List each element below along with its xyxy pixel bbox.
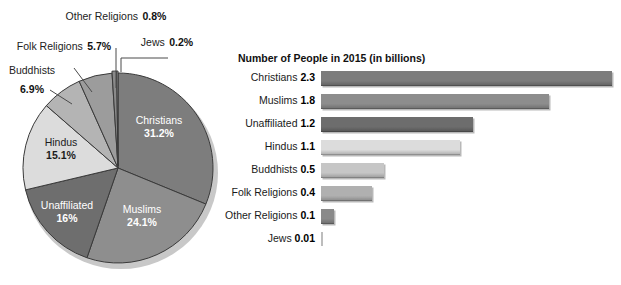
pie-callout-value: 6.9% [20, 83, 44, 95]
bar-fill[interactable] [321, 209, 334, 224]
bar-row: Buddhists 0.5 [232, 163, 621, 186]
bar-row-value: 0.01 [295, 232, 315, 244]
pie-callout-label: Folk Religions [17, 40, 83, 52]
pie-slice-label-hindus: Hindus 15.1% [30, 136, 92, 161]
bar-row-value: 0.1 [300, 209, 315, 221]
pie-callout-jews: Jews 0.2% [140, 32, 194, 51]
bar-fill[interactable] [321, 71, 612, 86]
bar-track [321, 209, 334, 223]
pie-callout-value: 0.8% [142, 10, 166, 22]
bar-fill[interactable] [321, 94, 549, 109]
bar-fill[interactable] [321, 117, 473, 132]
bar-row-label: Muslims 1.8 [259, 94, 315, 106]
bar-row: Jews 0.01 [232, 232, 621, 255]
pie-slice-label-text: Christians [122, 114, 196, 127]
bar-fill[interactable] [321, 186, 372, 201]
pie-slice-value-text: 15.1% [30, 149, 92, 162]
bar-row-name: Muslims [259, 94, 300, 106]
bar-row-label: Other Religions 0.1 [225, 209, 315, 221]
pie-callout-value: 0.2% [169, 36, 193, 48]
bar-track [321, 232, 323, 246]
pie-slice-label-text: Unaffiliated [28, 199, 106, 212]
pie-slice-label-unaffiliated: Unaffiliated 16% [28, 199, 106, 224]
bar-row-label: Hindus 1.1 [265, 140, 315, 152]
pie-slice-label-text: Hindus [30, 136, 92, 149]
bar-track [321, 140, 460, 154]
bar-track [321, 71, 612, 85]
pie-callout-buddhists: Buddhists 6.9% [0, 60, 64, 98]
pie-callout-other-religions: Other Religions 0.8% [64, 6, 168, 25]
bar-row-value: 1.8 [300, 94, 315, 106]
bar-row-value: 1.2 [300, 117, 315, 129]
bar-chart-panel: Number of People in 2015 (in billions) C… [232, 0, 621, 285]
bar-row: Other Religions 0.1 [232, 209, 621, 232]
pie-slice-label-christians: Christians 31.2% [122, 114, 196, 139]
bar-row: Muslims 1.8 [232, 94, 621, 117]
bar-row-name: Jews [268, 232, 295, 244]
bar-row-value: 2.3 [300, 71, 315, 83]
bar-track [321, 186, 372, 200]
bar-row-label: Folk Religions 0.4 [232, 186, 315, 198]
pie-callout-label: Buddhists [9, 64, 55, 76]
bar-row-label: Buddhists 0.5 [251, 163, 315, 175]
bar-row-name: Other Religions [225, 209, 300, 221]
pie-slice-value-text: 16% [28, 212, 106, 225]
bar-row-label: Jews 0.01 [268, 232, 315, 244]
bar-row-label: Unaffiliated 1.2 [245, 117, 315, 129]
bar-row: Christians 2.3 [232, 71, 621, 94]
bar-row: Folk Religions 0.4 [232, 186, 621, 209]
bar-fill[interactable] [321, 163, 384, 178]
pie-chart-panel: Other Religions 0.8% Jews 0.2% Folk Reli… [0, 0, 232, 285]
bar-track [321, 94, 549, 108]
infographic-root: Other Religions 0.8% Jews 0.2% Folk Reli… [0, 0, 621, 285]
bar-chart-title: Number of People in 2015 (in billions) [238, 52, 425, 64]
bar-row: Hindus 1.1 [232, 140, 621, 163]
bar-chart-rows: Christians 2.3Muslims 1.8Unaffiliated 1.… [232, 71, 621, 255]
bar-row-name: Hindus [265, 140, 301, 152]
pie-slice-value-text: 31.2% [122, 127, 196, 140]
bar-row-value: 0.5 [300, 163, 315, 175]
bar-row-value: 0.4 [300, 186, 315, 198]
bar-row-value: 1.1 [300, 140, 315, 152]
bar-fill[interactable] [321, 140, 460, 155]
leader-jews [121, 58, 168, 72]
bar-row-label: Christians 2.3 [251, 71, 315, 83]
pie-callout-label: Other Religions [66, 10, 138, 22]
bar-row-name: Unaffiliated [245, 117, 300, 129]
bar-track [321, 163, 384, 177]
pie-callout-value: 5.7% [87, 40, 111, 52]
bar-row-name: Buddhists [251, 163, 300, 175]
pie-slice-value-text: 24.1% [110, 216, 174, 229]
bar-row: Unaffiliated 1.2 [232, 117, 621, 140]
bar-row-name: Christians [251, 71, 301, 83]
pie-callout-folk-religions: Folk Religions 5.7% [16, 36, 112, 55]
bar-row-name: Folk Religions [232, 186, 301, 198]
bar-track [321, 117, 473, 131]
pie-callout-label: Jews [141, 36, 165, 48]
bar-fill[interactable] [321, 232, 323, 246]
pie-slice-label-text: Muslims [110, 203, 174, 216]
pie-slice-label-muslims: Muslims 24.1% [110, 203, 174, 228]
